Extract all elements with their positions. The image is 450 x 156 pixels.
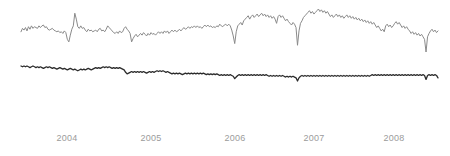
upper-series-line — [21, 9, 438, 52]
x-tick-label: 2008 — [384, 133, 405, 143]
x-tick-label: 2006 — [225, 133, 246, 143]
x-tick-label: 2004 — [57, 133, 78, 143]
lower-series-line — [21, 66, 438, 81]
x-tick-label: 2005 — [141, 133, 162, 143]
sparkline-chart: 20042005200620072008 — [0, 0, 450, 156]
x-tick-label: 2007 — [304, 133, 325, 143]
